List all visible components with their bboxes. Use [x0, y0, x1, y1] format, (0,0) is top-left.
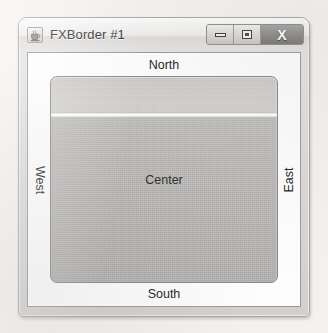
border-pane-middle-row: West Center East: [30, 76, 298, 283]
minimize-icon: [215, 33, 226, 37]
border-pane-east-region: East: [278, 76, 298, 283]
close-icon: X: [277, 28, 286, 42]
border-pane: North West Center East South: [30, 55, 298, 304]
window-controls: X: [206, 24, 304, 45]
border-pane-center-label: Center: [145, 173, 183, 187]
scanned-page: FXBorder #1 X North West: [0, 0, 328, 333]
maximize-icon: [242, 30, 252, 39]
border-pane-west-label: West: [33, 165, 47, 193]
close-button[interactable]: X: [261, 25, 303, 44]
minimize-button[interactable]: [207, 25, 234, 44]
border-pane-north-label: North: [30, 55, 298, 76]
border-pane-south-label: South: [30, 283, 298, 304]
application-window: FXBorder #1 X North West: [18, 17, 310, 317]
border-pane-east-label: East: [281, 167, 295, 192]
border-pane-center-region[interactable]: Center: [50, 76, 278, 283]
window-client-area: North West Center East South: [27, 52, 301, 307]
window-title: FXBorder #1: [50, 27, 206, 42]
maximize-button[interactable]: [234, 25, 261, 44]
java-duke-icon: [27, 27, 43, 43]
border-pane-west-region: West: [30, 76, 50, 283]
window-titlebar[interactable]: FXBorder #1 X: [19, 18, 309, 51]
